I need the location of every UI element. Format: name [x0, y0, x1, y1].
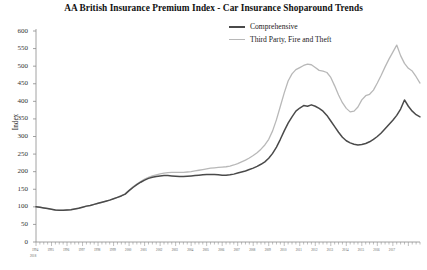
- chart-axes: [33, 29, 420, 246]
- y-axis-tick-350: 350: [2, 114, 28, 122]
- x-axis-tick-2008: 2008: [249, 248, 255, 252]
- x-axis-tick-1999: 1999: [110, 248, 116, 252]
- y-axis-tick-0: 0: [2, 238, 28, 246]
- y-axis-tick-400: 400: [2, 97, 28, 105]
- y-axis-tick-500: 500: [2, 62, 28, 70]
- legend-item-third-party-fire-and-theft[interactable]: Third Party, Fire and Theft: [229, 34, 409, 45]
- legend-swatch-third-party-fire-and-theft: [229, 39, 245, 40]
- y-axis-tick-300: 300: [2, 132, 28, 140]
- x-axis-tick-2003: 2003: [172, 248, 178, 252]
- y-axis-tick-100: 100: [2, 202, 28, 210]
- y-axis-tick-200: 200: [2, 167, 28, 175]
- x-axis-tick-2000: 2000: [125, 248, 131, 252]
- x-axis-tick-2005: 2005: [203, 248, 209, 252]
- legend-item-comprehensive[interactable]: Comprehensive: [229, 21, 409, 32]
- x-axis-tick-2013: 2013: [327, 248, 333, 252]
- legend-swatch-comprehensive: [229, 26, 245, 28]
- x-axis-tick-2017: 2017: [389, 248, 395, 252]
- legend-label-comprehensive: Comprehensive: [250, 22, 298, 31]
- x-axis-tick-2016: 2016: [373, 248, 379, 252]
- x-axis-tick-2014: 2014: [342, 248, 348, 252]
- y-axis-tick-600: 600: [2, 27, 28, 35]
- x-axis-tick-2004: 2004: [187, 248, 193, 252]
- x-axis-tick-2007: 2007: [234, 248, 240, 252]
- chart-legend: Comprehensive Third Party, Fire and Thef…: [229, 21, 409, 47]
- chart-container: AA British Insurance Premium Index - Car…: [0, 0, 427, 270]
- x-axis-tick-1995: 1995: [48, 248, 54, 252]
- y-axis-tick-450: 450: [2, 79, 28, 87]
- x-axis-tick-2009: 2009: [265, 248, 271, 252]
- chart-series-lines: [36, 45, 420, 210]
- y-axis-tick-550: 550: [2, 44, 28, 52]
- x-axis-tick-2001: 2001: [141, 248, 147, 252]
- x-axis-tick-1996: 1996: [63, 248, 69, 252]
- x-axis-tick-1998: 1998: [94, 248, 100, 252]
- x-axis-tick-2002: 2002: [156, 248, 162, 252]
- legend-label-third-party-fire-and-theft: Third Party, Fire and Theft: [250, 35, 331, 44]
- x-axis-tick-1994: 1994: [32, 248, 38, 252]
- x-axis-tick-2018: 2018: [30, 254, 36, 258]
- x-axis-tick-2011: 2011: [296, 248, 302, 252]
- x-axis-tick-1997: 1997: [79, 248, 85, 252]
- x-axis-tick-2012: 2012: [311, 248, 317, 252]
- x-axis-tick-2010: 2010: [280, 248, 286, 252]
- x-axis-tick-2015: 2015: [358, 248, 364, 252]
- y-axis-tick-150: 150: [2, 185, 28, 193]
- y-axis-tick-250: 250: [2, 150, 28, 158]
- y-axis-tick-50: 50: [2, 220, 28, 228]
- x-axis-tick-2006: 2006: [218, 248, 224, 252]
